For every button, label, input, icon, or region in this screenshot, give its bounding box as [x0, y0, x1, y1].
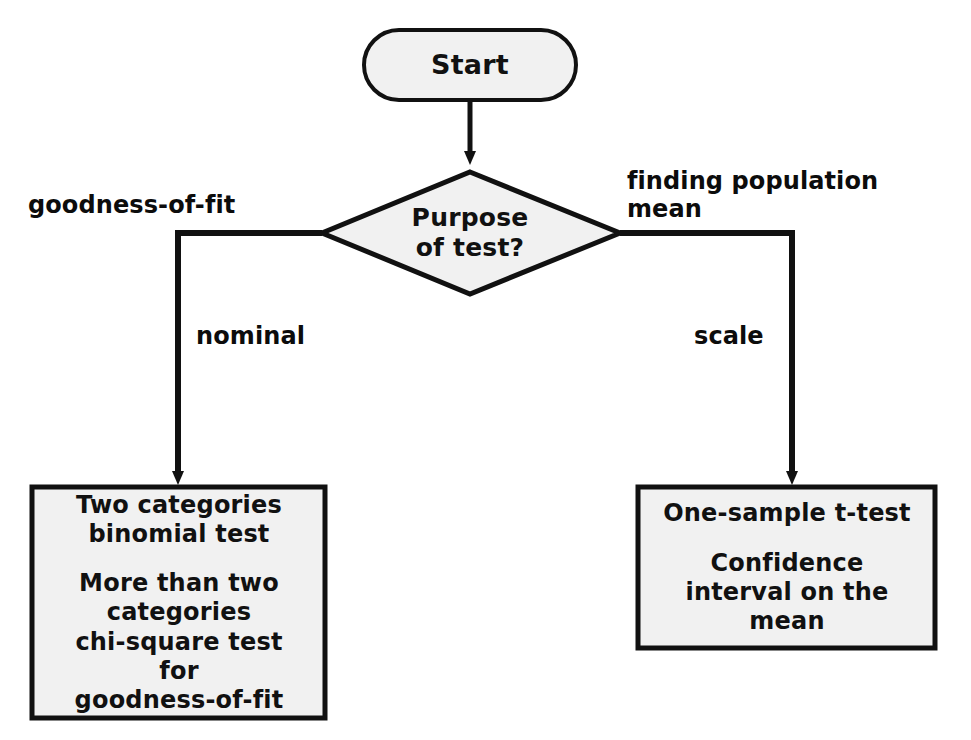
edge-label-finding-population-mean: finding population mean — [627, 168, 878, 223]
edge-label-nominal: nominal — [196, 323, 305, 351]
flowchart-graphics — [0, 0, 971, 740]
edge-decision-to-left-box — [178, 233, 322, 472]
edge-label-goodness-of-fit: goodness-of-fit — [28, 192, 235, 220]
start-node-shape — [364, 30, 576, 100]
box-right-shape — [638, 487, 935, 648]
decision-node-shape — [322, 172, 620, 294]
flowchart-canvas: Start Purpose of test? Two categories bi… — [0, 0, 971, 740]
edge-decision-to-right-box — [620, 233, 792, 472]
edge-label-scale: scale — [694, 323, 764, 351]
box-left-shape — [32, 487, 325, 718]
